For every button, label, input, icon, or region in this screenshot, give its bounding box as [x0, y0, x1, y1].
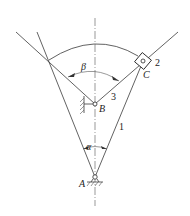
- label-beta: β: [80, 61, 86, 72]
- pivot-c: [141, 59, 145, 63]
- ground-a-strut-right: [97, 179, 99, 182]
- ground-a-strut-left: [91, 179, 93, 182]
- ground-a-hatch-icon: [87, 182, 102, 186]
- link-1: [95, 66, 141, 177]
- pivot-b: [93, 102, 97, 106]
- label-c: C: [143, 69, 150, 80]
- label-link-3: 3: [111, 91, 116, 102]
- beta-arc: [68, 71, 119, 81]
- label-b: B: [99, 103, 105, 114]
- label-alpha: α: [86, 141, 92, 152]
- beta-arrow-left-icon: [68, 73, 75, 77]
- alpha-arrow-right-icon: [101, 146, 107, 149]
- label-a: A: [78, 178, 86, 189]
- link-3: [95, 32, 178, 104]
- label-link-2: 2: [155, 57, 160, 68]
- beta-arrow-right-icon: [112, 76, 119, 81]
- link-1-left-position: [37, 32, 95, 177]
- label-link-1: 1: [119, 121, 124, 132]
- ground-b-hatch-icon: [80, 98, 84, 114]
- linkage-diagram: β α A B C 1 2 3: [0, 0, 190, 216]
- c-trajectory-arc: [49, 44, 138, 60]
- pivot-a: [93, 175, 97, 179]
